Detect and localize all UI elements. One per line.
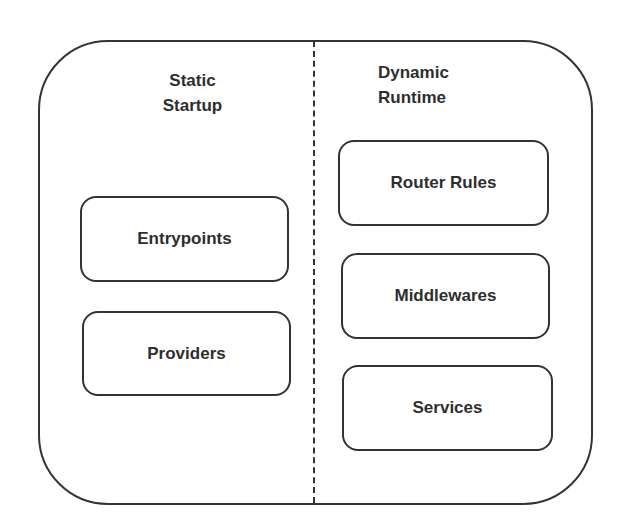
services-label: Services	[413, 398, 483, 418]
providers-box: Providers	[82, 311, 291, 396]
router-rules-label: Router Rules	[391, 173, 497, 193]
middlewares-box: Middlewares	[341, 253, 550, 339]
services-box: Services	[342, 365, 553, 451]
providers-label: Providers	[147, 344, 225, 364]
heading-line: Dynamic	[378, 60, 488, 85]
static-startup-heading: Static Startup	[140, 68, 245, 118]
middlewares-label: Middlewares	[394, 286, 496, 306]
heading-line: Runtime	[378, 85, 488, 110]
heading-line: Startup	[140, 93, 245, 118]
entrypoints-label: Entrypoints	[137, 229, 231, 249]
router-rules-box: Router Rules	[338, 140, 549, 226]
entrypoints-box: Entrypoints	[80, 196, 289, 282]
section-divider	[313, 41, 315, 503]
heading-line: Static	[140, 68, 245, 93]
dynamic-runtime-heading: Dynamic Runtime	[378, 60, 488, 110]
